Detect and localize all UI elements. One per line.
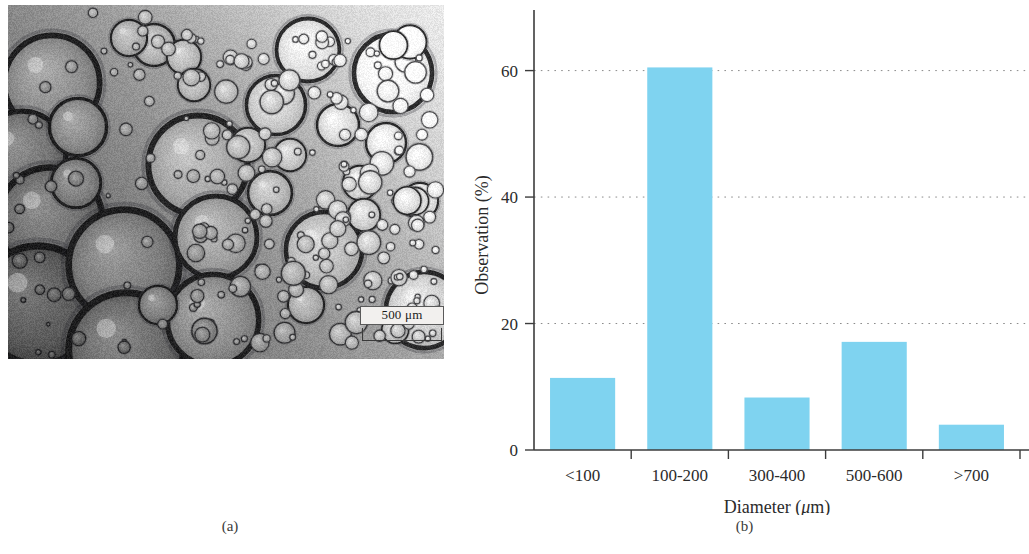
bar-chart: 0204060 <100100-200300-400500-600>700 Ob… — [460, 0, 1029, 515]
bar-300-400 — [744, 398, 809, 450]
gridlines — [534, 71, 1029, 324]
bar->700 — [939, 425, 1004, 450]
panel-a-caption: (a) — [0, 518, 460, 535]
scale-bar-bracket — [362, 328, 442, 341]
x-tick-label: 300-400 — [749, 466, 806, 485]
y-tick-label: 60 — [501, 62, 518, 81]
x-axis-ticks: <100100-200300-400500-600>700 — [565, 450, 1020, 485]
y-tick-label: 0 — [510, 441, 519, 460]
y-axis-title: Observation (%) — [472, 175, 493, 294]
y-tick-label: 20 — [501, 315, 518, 334]
y-tick-label: 40 — [501, 188, 518, 207]
x-tick-label: <100 — [565, 466, 600, 485]
panel-a-micrograph: 500 μm (a) — [0, 0, 460, 554]
bar-100-200 — [647, 67, 712, 450]
x-axis-title: Diameter (μm) — [724, 497, 831, 515]
x-tick-label: 500-600 — [846, 466, 903, 485]
scale-bar: 500 μm — [360, 306, 444, 341]
bar-500-600 — [842, 342, 907, 450]
bar-<100 — [550, 378, 615, 450]
x-tick-label: >700 — [954, 466, 989, 485]
bars — [550, 67, 1004, 450]
micrograph-image: 500 μm — [8, 5, 444, 359]
panel-b-chart: 0204060 <100100-200300-400500-600>700 Ob… — [460, 0, 1029, 554]
x-tick-label: 100-200 — [651, 466, 708, 485]
y-axis-ticks: 0204060 — [501, 62, 534, 460]
scale-bar-label: 500 μm — [360, 306, 444, 325]
panel-b-caption: (b) — [460, 518, 1029, 535]
